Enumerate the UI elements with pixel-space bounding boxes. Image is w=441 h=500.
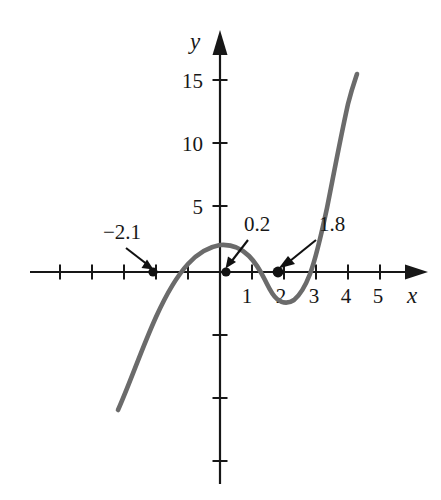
annotation-label-neg2.1: −2.1 xyxy=(103,220,141,244)
y-tick-label-5: 5 xyxy=(193,195,204,219)
y-tick-label-10: 10 xyxy=(182,132,203,156)
root-marker-1.8 xyxy=(273,267,284,278)
y-axis-label: y xyxy=(188,29,201,54)
x-tick-label-5: 5 xyxy=(373,284,384,308)
cubic-graph-svg: 1 2 3 4 5 x 15 10 5 y xyxy=(0,0,441,500)
root-marker-0.2 xyxy=(221,267,230,276)
x-tick-label-3: 3 xyxy=(309,284,320,308)
annotation-label-0.2: 0.2 xyxy=(244,212,270,236)
annotation-label-1.8: 1.8 xyxy=(319,212,345,236)
x-tick-label-1: 1 xyxy=(242,284,253,308)
y-tick-label-15: 15 xyxy=(182,69,203,93)
x-axis-label: x xyxy=(406,283,418,308)
x-tick-label-4: 4 xyxy=(341,284,352,308)
graph-figure: 1 2 3 4 5 x 15 10 5 y xyxy=(0,0,441,500)
